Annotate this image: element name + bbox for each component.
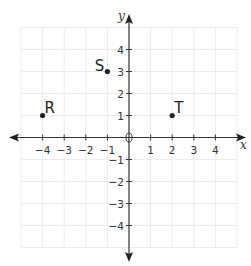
y-tick-label: 3 xyxy=(117,66,124,78)
point-s xyxy=(105,69,110,74)
x-tick-label: 4 xyxy=(212,144,219,156)
x-tick-label: −3 xyxy=(56,144,71,156)
y-tick-label: −4 xyxy=(109,220,125,232)
y-tick-label: −1 xyxy=(109,154,124,166)
point-label-r: R xyxy=(45,99,55,117)
axes: x y xyxy=(9,9,247,262)
y-tick-label: −3 xyxy=(109,198,124,210)
x-axis-label: x xyxy=(240,138,247,152)
x-tick-label: −2 xyxy=(78,144,93,156)
y-axis-label: y xyxy=(117,9,125,23)
y-tick-label: −2 xyxy=(109,176,124,188)
y-tick-label: 1 xyxy=(117,110,124,122)
x-tick-label: 1 xyxy=(147,144,154,156)
coordinate-plane: x y −4−3−2−112344321−1−2−3−4 RST xyxy=(0,0,251,266)
point-label-t: T xyxy=(173,99,184,117)
x-tick-label: 3 xyxy=(190,144,197,156)
x-tick-label: −4 xyxy=(35,144,51,156)
y-tick-label: 2 xyxy=(117,88,124,100)
y-tick-label: 4 xyxy=(117,44,124,56)
point-label-s: S xyxy=(95,57,105,75)
points: RST xyxy=(40,57,184,119)
x-tick-label: 2 xyxy=(169,144,176,156)
